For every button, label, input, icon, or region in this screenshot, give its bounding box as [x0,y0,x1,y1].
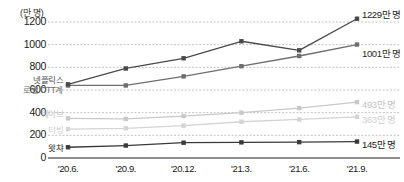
data-point [355,115,359,119]
data-point [355,42,359,46]
data-point [124,117,128,121]
data-point [297,48,301,52]
data-point [181,141,185,145]
y-axis-tick-1200: 1200 [12,15,46,27]
series-label-3: 티빙 [48,123,63,135]
series-line-1 [68,45,357,86]
data-point [181,56,185,60]
x-axis-tick-3: '21.3. [215,163,267,174]
data-point [297,117,301,121]
data-point [297,140,301,144]
end-label-2: 493만 명 [362,97,396,111]
data-point [297,54,301,58]
data-point [181,114,185,118]
data-point [66,82,70,86]
data-point [181,124,185,128]
data-point [124,126,128,130]
data-point [355,139,359,143]
data-point [181,74,185,78]
y-axis-tick-800: 800 [12,60,46,72]
end-label-0: 1229만 명 [362,7,401,21]
data-point [124,143,128,147]
end-label-3: 363만 명 [362,112,396,126]
x-axis-tick-5: '21.9. [331,163,383,174]
y-axis-tick-200: 200 [12,128,46,140]
x-axis-tick-4: '21.6. [273,163,325,174]
y-axis-tick-1000: 1000 [12,38,46,50]
data-point [355,17,359,21]
series-label-2: 웨이브 [41,107,64,119]
end-label-1: 1001만 명 [362,46,401,60]
data-point [66,145,70,149]
data-point [66,116,70,120]
data-point [239,110,243,114]
end-label-4: 145만 명 [362,137,396,151]
data-point [66,127,70,131]
x-axis-tick-0: '20.6. [42,163,94,174]
ott-subscribers-line-chart: (만 명) 120010008006004002000 '20.6.'20.9.… [0,0,404,182]
x-axis-tick-2: '20.12. [158,163,210,174]
data-point [239,140,243,144]
series-line-0 [68,19,357,85]
series-label-4: 왓챠 [48,141,63,153]
y-axis-tick-0: 0 [12,151,46,163]
x-axis-tick-1: '20.9. [100,163,152,174]
data-point [297,106,301,110]
series-line-4 [68,142,357,148]
series-label-1: 로컬 OTT계 [23,83,63,95]
data-point [124,66,128,70]
series-line-2 [68,102,357,119]
data-point [239,39,243,43]
data-point [239,120,243,124]
data-point [124,83,128,87]
data-point [355,100,359,104]
data-point [239,64,243,68]
